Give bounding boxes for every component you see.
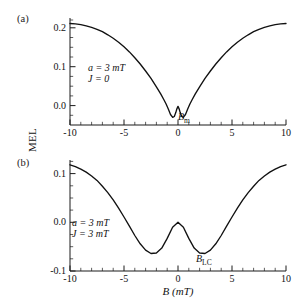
x-axis-label-text: B (mT) xyxy=(163,285,194,297)
panel-b-ytick-2: 0.1 xyxy=(34,168,66,179)
panel-b-xtick-3: 5 xyxy=(216,273,248,284)
panel-b-xtick-1: -5 xyxy=(108,273,140,284)
panel-b-axes xyxy=(70,160,286,271)
panel-b-annotation-0: a = 3 mT xyxy=(72,217,109,228)
panel-b-annotation-1: J = 3 mT xyxy=(72,228,108,239)
panel-b-xtick-0: -10 xyxy=(54,273,86,284)
figure-root: MEL (a) xyxy=(0,0,301,302)
panel-b-xtick-4: 10 xyxy=(270,273,301,284)
panel-b-curve xyxy=(70,165,286,254)
panel-b-curve-label: BLC xyxy=(196,253,212,267)
panel-b-svg xyxy=(0,0,301,302)
panel-b-curve-label-sub: LC xyxy=(202,258,212,267)
panel-b-ytick-1: 0.0 xyxy=(34,216,66,227)
panel-b-xtick-2: 0 xyxy=(162,273,194,284)
x-axis-label: B (mT) xyxy=(128,285,228,297)
